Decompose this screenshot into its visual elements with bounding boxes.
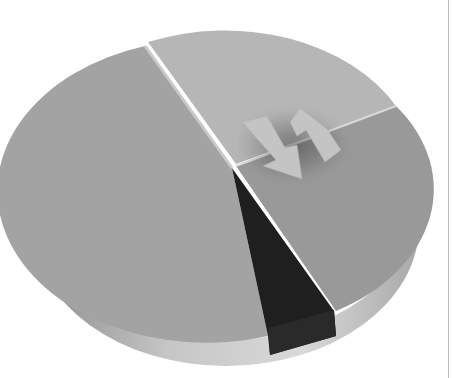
frame-edge-line: [448, 0, 449, 378]
pie-chart-3d: [0, 0, 452, 378]
